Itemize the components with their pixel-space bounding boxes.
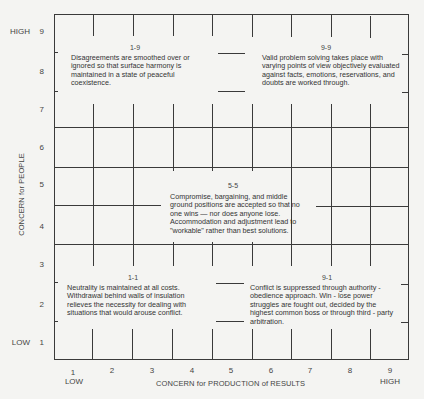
grid-tick <box>216 283 244 284</box>
grid-tick <box>291 15 292 37</box>
grid-line <box>252 104 253 171</box>
grid-line <box>54 205 161 206</box>
x-tick-3: 3 <box>142 366 162 375</box>
grid-tick <box>93 14 94 36</box>
grid-tick <box>172 329 173 360</box>
grid-tick <box>252 15 253 37</box>
x-tick-7: 7 <box>300 366 320 375</box>
x-axis-low-label: LOW <box>61 377 87 386</box>
y-tick-8: 8 <box>0 67 44 76</box>
cell-9-9-label: 9-9 <box>311 44 341 51</box>
grid-tick <box>331 15 332 37</box>
x-tick-2: 2 <box>102 366 122 375</box>
x-tick-8: 8 <box>340 366 360 375</box>
grid-line <box>370 104 371 266</box>
x-tick-4: 4 <box>182 366 202 375</box>
grid-line <box>54 244 409 245</box>
grid-line <box>316 206 409 207</box>
grid-line <box>291 104 292 266</box>
grid-tick <box>173 14 174 36</box>
grid-tick <box>402 92 409 93</box>
grid-tick <box>54 52 58 53</box>
grid-line <box>54 167 409 168</box>
cell-1-9-label: 1-9 <box>120 44 150 51</box>
y-axis-title: CONCERN for PEOPLE <box>17 150 26 240</box>
x-axis-title: CONCERN for PRODUCTION of RESULTS <box>156 379 305 388</box>
y-tick-7: 7 <box>0 105 44 114</box>
x-tick-9: 9 <box>380 366 400 375</box>
grid-tick <box>401 284 409 285</box>
cell-1-1-label: 1-1 <box>118 274 148 281</box>
grid-tick <box>370 329 371 360</box>
cell-5-5-text: Compromise, bargaining, and middle groun… <box>170 193 310 235</box>
y-tick-1: 1 <box>0 338 44 347</box>
cell-1-1-text: Neutrality is maintained at all costs. W… <box>67 284 209 318</box>
grid-line <box>331 104 332 266</box>
cell-9-1-label: 9-1 <box>312 274 342 281</box>
y-tick-3: 3 <box>0 260 44 269</box>
y-tick-2: 2 <box>0 300 44 309</box>
grid-tick <box>212 14 213 36</box>
grid-line <box>212 242 213 266</box>
x-tick-1: 1 <box>63 368 83 377</box>
grid-tick <box>133 14 134 36</box>
grid-tick <box>212 329 213 360</box>
y-tick-9: 9 <box>0 27 44 36</box>
grid-tick <box>54 321 58 322</box>
grid-line <box>212 104 213 171</box>
grid-tick <box>252 329 253 360</box>
grid-tick <box>54 282 58 283</box>
grid-line <box>252 242 253 266</box>
grid-tick <box>92 329 93 360</box>
grid-tick <box>216 321 244 322</box>
grid-tick <box>132 329 133 360</box>
grid-tick <box>54 91 58 92</box>
grid-tick <box>402 54 409 55</box>
x-tick-6: 6 <box>261 366 281 375</box>
grid-line <box>54 127 409 128</box>
cell-9-9-text: Valid problem solving takes place with v… <box>262 54 402 88</box>
grid-tick <box>218 53 245 54</box>
x-tick-5: 5 <box>221 366 241 375</box>
x-axis-high-label: HIGH <box>376 377 404 386</box>
grid-line <box>93 104 94 266</box>
cell-1-9-text: Disagreements are smoothed over or ignor… <box>71 54 206 88</box>
cell-5-5-label: 5-5 <box>218 182 248 189</box>
grid-line <box>173 104 174 171</box>
grid-tick <box>331 329 332 360</box>
grid-line <box>173 242 174 266</box>
grid-line <box>133 104 134 266</box>
grid-tick <box>401 322 409 323</box>
grid-tick <box>291 329 292 360</box>
grid-tick <box>370 16 371 38</box>
grid-tick <box>218 91 245 92</box>
cell-9-1-text: Conflict is suppressed through authority… <box>250 284 400 326</box>
